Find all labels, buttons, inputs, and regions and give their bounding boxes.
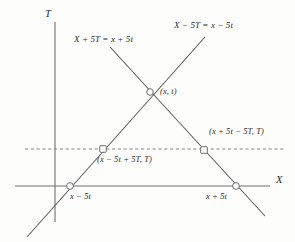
right-characteristic-line [27, 37, 205, 237]
right-characteristic-equation-label: X − 5T = x − 5t [174, 21, 233, 30]
marker-apex [147, 89, 154, 96]
marker-right-x-intercept [233, 183, 240, 190]
apex-point-label: (x, t) [160, 87, 177, 96]
marker-left-x-intercept [67, 183, 74, 190]
x-axis-label: X [276, 174, 283, 185]
left-x-intercept-label: x − 5t [70, 192, 91, 201]
left-characteristic-equation-label: X + 5T = x + 5t [74, 35, 133, 44]
figure-root: T X X + 5T = x + 5t X − 5T = x − 5t (x, … [0, 0, 295, 242]
left-level-intersection-label: (x − 5t + 5T, T) [97, 155, 152, 164]
right-x-intercept-label: x + 5t [206, 192, 227, 201]
right-level-intersection-label: (x + 5t − 5T, T) [209, 127, 264, 136]
marker-right-level-intersection [201, 147, 208, 154]
t-axis-label: T [45, 8, 51, 19]
diagram-canvas [0, 0, 295, 242]
marker-left-level-intersection [100, 146, 107, 153]
